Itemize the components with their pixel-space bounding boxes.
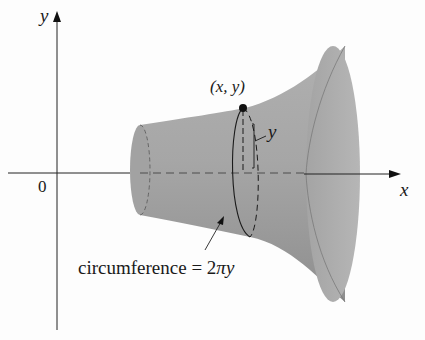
y-axis-label: y — [40, 6, 48, 25]
y-axis-arrow — [53, 11, 61, 22]
x-axis-label: x — [400, 180, 408, 199]
radius-label: y — [268, 122, 276, 141]
origin-label: 0 — [38, 178, 47, 195]
diagram-canvas — [0, 0, 425, 340]
x-axis-arrow — [389, 170, 401, 178]
point-label: (x, y) — [210, 78, 245, 95]
annotation-pi: π — [216, 257, 226, 278]
annotation-prefix: circumference = 2 — [78, 257, 216, 278]
circumference-annotation: circumference = 2πy — [78, 258, 234, 277]
annotation-suffix: y — [226, 257, 234, 278]
point-marker — [239, 104, 247, 112]
surface-of-revolution-diagram: y 0 x (x, y) y circumference = 2πy — [0, 0, 425, 340]
